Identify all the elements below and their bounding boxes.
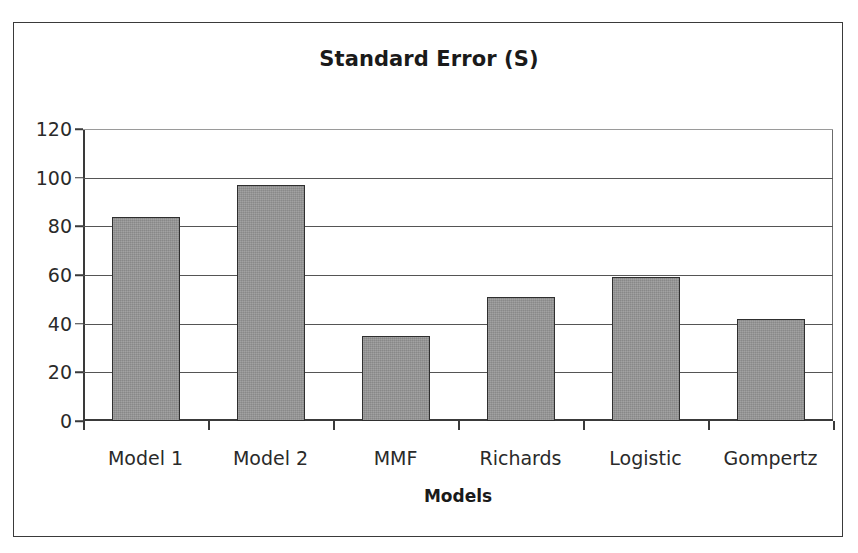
x-axis-label-gompertz: Gompertz [724,447,818,469]
bar-slot [208,129,333,421]
x-tick-mark-2 [333,421,335,430]
y-tick-label-80: 80 [48,215,72,237]
bar-richards[interactable] [487,297,555,421]
x-axis-label-richards: Richards [479,447,561,469]
x-tick-mark-5 [708,421,710,430]
x-tick-mark-end-1 [833,421,835,430]
bar-mmf[interactable] [362,336,430,421]
bar-slot [83,129,208,421]
x-tick-mark-4 [583,421,585,430]
y-tick-mark-120 [75,128,83,130]
x-tick-mark-3 [458,421,460,430]
y-tick-label-100: 100 [36,167,72,189]
bar-model-2[interactable] [237,185,305,421]
x-tick-mark-end-0 [83,421,85,430]
y-tick-mark-100 [75,177,83,179]
bar-slot [458,129,583,421]
x-axis-label-logistic: Logistic [609,447,681,469]
y-tick-label-0: 0 [60,410,72,432]
x-axis-labels: Model 1Model 2MMFRichardsLogisticGompert… [83,447,833,479]
bar-slot [708,129,833,421]
bars-layer [83,129,833,421]
chart-figure: Standard Error (S) 020406080100120 Model… [13,22,843,537]
bar-logistic[interactable] [612,277,680,421]
y-tick-label-40: 40 [48,313,72,335]
y-tick-mark-80 [75,226,83,228]
y-tick-label-20: 20 [48,361,72,383]
chart-title: Standard Error (S) [14,47,844,71]
x-axis-label-model-2: Model 2 [233,447,308,469]
plot-area: 020406080100120 [83,129,833,421]
bar-model-1[interactable] [112,217,180,421]
y-tick-mark-60 [75,274,83,276]
x-axis-title: Models [83,486,833,506]
y-tick-label-120: 120 [36,118,72,140]
y-tick-mark-20 [75,372,83,374]
bar-slot [333,129,458,421]
y-tick-mark-0 [75,420,83,422]
bar-gompertz[interactable] [737,319,805,421]
x-tick-mark-1 [208,421,210,430]
x-axis-label-model-1: Model 1 [108,447,183,469]
bar-slot [583,129,708,421]
y-tick-mark-40 [75,323,83,325]
x-axis-label-mmf: MMF [374,447,418,469]
y-tick-label-60: 60 [48,264,72,286]
